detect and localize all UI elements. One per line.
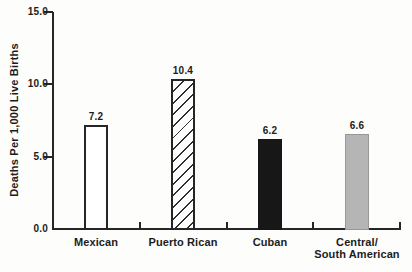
x-category-label: Central/ South American: [307, 236, 407, 260]
y-axis-title: Deaths Per 1,000 Live Births: [7, 20, 21, 220]
x-category-label: Cuban: [220, 236, 320, 248]
y-tick-label: 5.0: [8, 151, 48, 163]
bar-2: [171, 79, 195, 230]
bar-value-label: 7.2: [71, 111, 121, 123]
y-tick-label: 0.0: [8, 223, 48, 235]
y-axis: [52, 12, 54, 230]
x-tick: [399, 222, 401, 230]
x-tick: [312, 222, 314, 230]
bar-4: [345, 134, 369, 230]
bar-3: [258, 139, 282, 230]
bar-value-label: 10.4: [158, 65, 208, 77]
x-tick: [226, 222, 228, 230]
x-category-label: Puerto Rican: [133, 236, 233, 248]
y-tick-label: 10.0: [8, 78, 48, 90]
x-category-label: Mexican: [46, 236, 146, 248]
bar-chart: Deaths Per 1,000 Live Births 0.05.010.01…: [0, 0, 412, 272]
x-tick: [139, 222, 141, 230]
bar-value-label: 6.6: [332, 120, 382, 132]
bar-1: [84, 125, 108, 230]
y-tick-label: 15.0: [8, 6, 48, 18]
bar-value-label: 6.2: [245, 125, 295, 137]
